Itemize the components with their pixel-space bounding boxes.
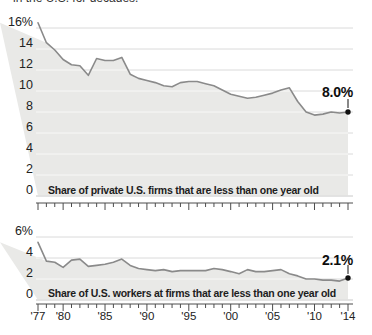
y-tick-label: 0 [26,287,33,301]
y-tick-label: 8 [26,99,33,113]
chart-figure: in the U.S. for decades. 16%141210864206… [0,0,372,335]
x-tick-label: '10 [307,310,322,322]
workers-end-value-label: 2.1% [322,253,353,268]
firms-series-label: Share of private U.S. firms that are les… [48,184,319,196]
firms-startup-share-panel: 16%14121086420 [0,15,353,210]
y-tick-label: 12 [19,57,33,71]
workers-startup-share-end-dot [345,275,350,280]
x-tick-label: '00 [223,310,238,322]
y-tick-label: 2 [26,162,33,176]
workers-series-label: Share of U.S. workers at firms that are … [48,287,336,299]
firms-startup-share-end-dot [345,109,350,114]
y-tick-label: 14 [19,36,33,50]
y-tick-label: 10 [19,78,33,92]
y-tick-label: 6% [15,224,33,238]
firms-end-value-label: 8.0% [322,85,353,100]
dual-area-chart: 16%141210864206%420'77'80'85'90'95'00'05… [0,0,372,335]
x-tick-label: '14 [341,310,357,322]
y-tick-label: 6 [26,120,33,134]
x-tick-label: '80 [56,310,71,322]
x-tick-label: '77 [31,310,46,322]
x-tick-label: '05 [265,310,280,322]
y-tick-label: 4 [26,245,33,259]
workers-startup-share-panel: 6%420'77'80'85'90'95'00'05'10'14 [0,224,356,322]
x-tick-label: '90 [139,310,154,322]
y-tick-label: 4 [26,141,33,155]
y-tick-label: 16% [8,15,33,29]
x-tick-label: '85 [98,310,113,322]
x-tick-label: '95 [181,310,196,322]
y-tick-label: 0 [26,183,33,197]
y-tick-label: 2 [26,266,33,280]
